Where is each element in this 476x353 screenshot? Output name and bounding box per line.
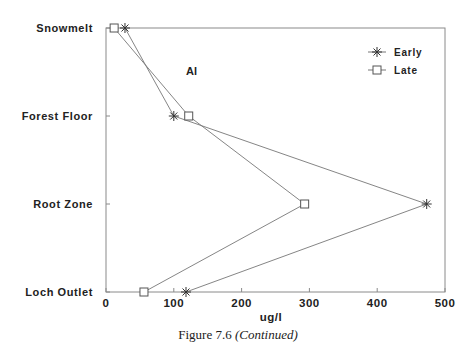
figure-caption: Figure 7.6 (Continued) [0, 327, 476, 343]
x-tick-label: 200 [231, 297, 252, 309]
x-tick-label: 0 [103, 297, 110, 309]
legend: EarlyLate [368, 47, 422, 76]
svg-text:Early: Early [394, 47, 422, 58]
category-label: Snowmelt [36, 22, 93, 34]
legend-item-late: Late [368, 65, 418, 76]
element-annotation: Al [186, 65, 197, 77]
al-concentration-chart: SnowmeltForest FloorRoot ZoneLoch Outlet… [0, 0, 476, 325]
legend-item-early: Early [368, 47, 422, 58]
category-label: Forest Floor [22, 110, 93, 122]
x-tick-label: 100 [163, 297, 184, 309]
series-early [120, 23, 432, 297]
series-late [110, 24, 309, 296]
category-label: Root Zone [33, 198, 93, 210]
caption-figure-number: Figure 7.6 [178, 327, 231, 342]
category-label: Loch Outlet [25, 286, 93, 298]
x-tick-label: 500 [435, 297, 456, 309]
svg-text:Late: Late [394, 65, 418, 76]
x-axis-label: ug/l [260, 311, 282, 323]
category-axis-labels: SnowmeltForest FloorRoot ZoneLoch Outlet [22, 22, 110, 298]
x-tick-label: 400 [367, 297, 388, 309]
data-series [110, 23, 432, 297]
x-axis-ticks: 0100200300400500 [103, 288, 456, 309]
caption-continued: (Continued) [235, 327, 298, 342]
x-tick-label: 300 [299, 297, 320, 309]
